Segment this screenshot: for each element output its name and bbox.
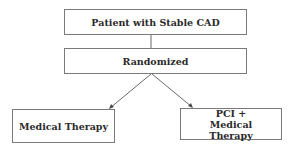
node-medical-therapy: Medical Therapy: [12, 109, 115, 143]
edge-randomized-medical: [110, 74, 151, 108]
node-label: Medical Therapy: [19, 121, 108, 132]
node-label: Randomized: [123, 56, 189, 67]
node-label: Patient with Stable CAD: [91, 17, 219, 28]
node-randomized: Randomized: [64, 48, 247, 74]
node-patient-with-stable-cad: Patient with Stable CAD: [64, 9, 247, 35]
node-label: PCI + Medical Therapy: [196, 108, 266, 141]
node-pci-medical-therapy: PCI + Medical Therapy: [180, 108, 282, 140]
edge-randomized-pci: [152, 74, 192, 107]
